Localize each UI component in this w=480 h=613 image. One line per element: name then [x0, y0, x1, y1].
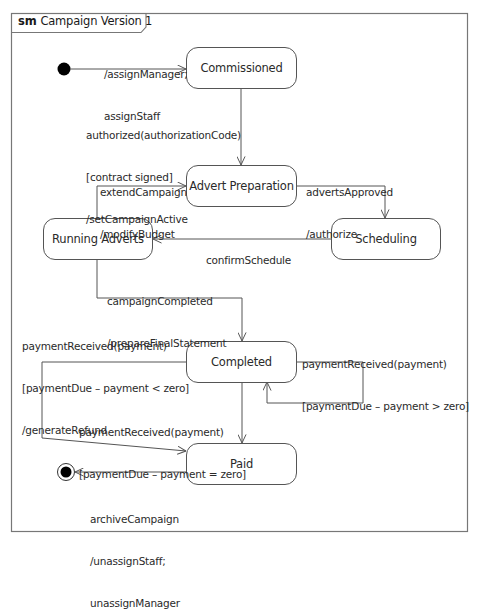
- state-label: Commissioned: [200, 61, 282, 75]
- frame-name: Campaign Version 1: [40, 14, 152, 28]
- label-paid-to-final: archiveCampaign /unassignStaff; unassign…: [90, 484, 180, 613]
- final-state-inner-icon: [61, 467, 72, 478]
- label-advert-preparation-to-scheduling: advertsApproved /authorize: [306, 157, 393, 269]
- state-commissioned[interactable]: Commissioned: [186, 47, 297, 89]
- initial-state-icon: [58, 63, 71, 76]
- frame-title: smCampaign Version 1: [18, 14, 152, 28]
- frame-keyword: sm: [18, 14, 36, 28]
- label-running-to-advert-preparation: extendCampaign /modifyBudget: [100, 157, 187, 269]
- label-completed-self-loop: paymentReceived(payment) [paymentDue – p…: [302, 329, 469, 441]
